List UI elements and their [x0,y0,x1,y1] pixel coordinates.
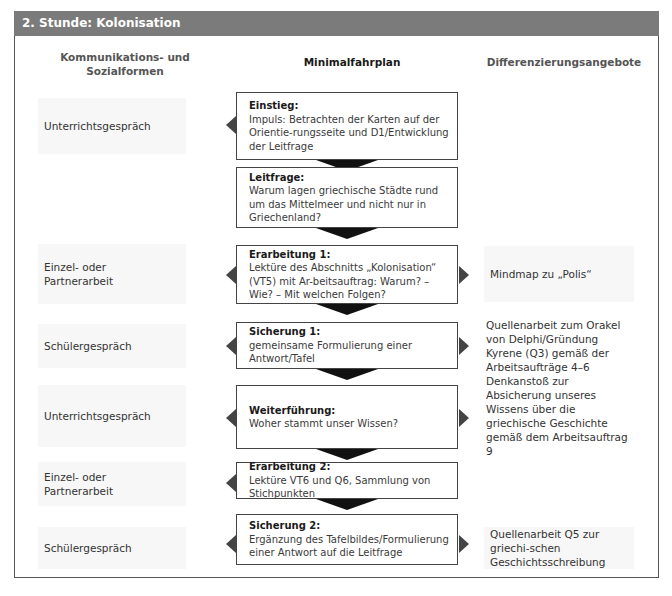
differentiation-cell: Quellenarbeit Q5 zur griechi-schen Gesch… [484,527,634,569]
down-arrow-icon [316,499,378,510]
step-weiterfuehrung: Weiterführung: Woher stammt unser Wissen… [236,385,458,449]
social-form-label: Unterrichtsgespräch [44,119,151,133]
step-text: Woher stammt unser Wissen? [249,417,449,431]
column-header-differentiation: Differenzierungsangebote [484,55,644,69]
right-arrow-icon [459,409,469,427]
differentiation-cell: Denkanstoß zur Absicherung unseres Wisse… [484,385,634,447]
step-title: Sicherung 2: [249,519,449,533]
step-erarbeitung-2: Erarbeitung 2: Lektüre VT6 und Q6, Samml… [236,462,458,499]
social-form-cell: Schülergespräch [38,324,186,368]
step-title: Einstieg: [249,99,449,113]
step-text: Impuls: Betrachten der Karten auf der Or… [249,113,449,154]
differentiation-cell: Quellenarbeit zum Orakel von Delphi/Grün… [484,322,634,370]
step-sicherung-2: Sicherung 2: Ergänzung des Tafelbildes/F… [236,514,458,565]
social-form-label: Einzel- oder Partnerarbeit [44,260,134,288]
left-arrow-icon [226,337,236,355]
column-header-social-forms: Kommunikations- und Sozialformen [60,50,190,78]
down-arrow-icon [316,304,378,315]
step-text: Lektüre VT6 und Q6, Sammlung von Stichpu… [249,474,449,501]
social-form-cell: Schülergespräch [38,527,186,569]
step-einstieg: Einstieg: Impuls: Betrachten der Karten … [236,92,458,160]
differentiation-label: Quellenarbeit Q5 zur griechi-schen Gesch… [490,527,634,569]
lesson-title: 2. Stunde: Kolonisation [14,11,659,36]
step-sicherung-1: Sicherung 1: gemeinsame Formulierung ein… [236,322,458,369]
social-form-cell: Unterrichtsgespräch [38,385,186,447]
down-arrow-icon [316,369,378,380]
right-arrow-icon [459,535,469,553]
differentiation-label: Quellenarbeit zum Orakel von Delphi/Grün… [486,318,634,374]
right-arrow-icon [459,266,469,284]
step-title: Erarbeitung 2: [249,460,449,474]
step-text: Ergänzung des Tafelbildes/Formulierung e… [249,533,449,560]
right-arrow-icon [459,337,469,355]
left-arrow-icon [226,409,236,427]
social-form-cell: Einzel- oder Partnerarbeit [38,244,186,304]
social-form-label: Schülergespräch [44,541,132,555]
step-text: Lektüre des Abschnitts „Kolonisation“ (V… [249,261,449,302]
column-header-plan: Minimalfahrplan [262,55,442,69]
social-form-label: Schülergespräch [44,339,132,353]
step-erarbeitung-1: Erarbeitung 1: Lektüre des Abschnitts „K… [236,245,458,304]
step-title: Weiterführung: [249,404,449,418]
differentiation-cell: Mindmap zu „Polis“ [484,246,634,302]
step-title: Erarbeitung 1: [249,248,449,262]
down-arrow-icon [316,228,378,239]
social-form-cell: Unterrichtsgespräch [38,98,186,154]
social-form-cell: Einzel- oder Partnerarbeit [38,462,186,506]
left-arrow-icon [226,474,236,492]
step-leitfrage: Leitfrage: Warum lagen griechische Städt… [236,167,458,228]
down-arrow-icon [316,449,378,460]
step-title: Sicherung 1: [249,325,449,339]
step-text: gemeinsame Formulierung einer Antwort/Ta… [249,339,449,366]
left-arrow-icon [226,266,236,284]
step-text: Warum lagen griechische Städte rund um d… [249,184,449,225]
left-arrow-icon [226,535,236,553]
differentiation-label: Denkanstoß zur Absicherung unseres Wisse… [486,374,634,458]
differentiation-label: Mindmap zu „Polis“ [490,267,592,281]
step-title: Leitfrage: [249,171,449,185]
social-form-label: Einzel- oder Partnerarbeit [44,470,134,498]
social-form-label: Unterrichtsgespräch [44,409,151,423]
left-arrow-icon [226,116,236,134]
